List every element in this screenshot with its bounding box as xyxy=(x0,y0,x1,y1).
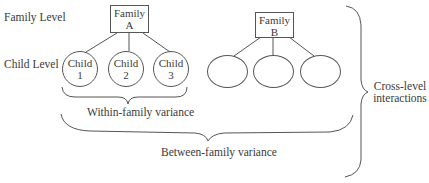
within-family-brace xyxy=(62,87,187,104)
child-a2-label-line2: 2 xyxy=(109,69,143,81)
child-a2-label-line1: Child xyxy=(109,57,143,69)
family-a-label-line1: Family xyxy=(111,7,148,19)
child-a1-label-line2: 1 xyxy=(63,69,97,81)
child-a1-label-line1: Child xyxy=(63,57,97,69)
family-b-box: Family B xyxy=(255,12,294,38)
family-b-label-line2: B xyxy=(256,26,293,38)
family-level-label: Family Level xyxy=(4,11,66,23)
cross-level-label-line2: interactions xyxy=(370,92,429,104)
within-family-variance-label: Within-family variance xyxy=(87,106,194,118)
child-node-b3 xyxy=(300,55,341,88)
child-node-a3: Child 3 xyxy=(153,51,189,87)
cross-level-label-line1: Cross-level xyxy=(370,80,429,92)
child-node-a1: Child 1 xyxy=(62,51,98,87)
connector-a-1 xyxy=(86,33,117,52)
child-level-label: Child Level xyxy=(4,58,59,70)
cross-level-brace xyxy=(345,6,368,177)
child-node-a2: Child 2 xyxy=(108,51,144,87)
child-a3-label-line2: 3 xyxy=(154,69,188,81)
family-a-label-line2: A xyxy=(111,19,148,31)
child-node-b2 xyxy=(253,55,294,88)
child-node-b1 xyxy=(207,55,248,88)
between-family-brace xyxy=(61,114,353,141)
child-a3-label-line1: Child xyxy=(154,57,188,69)
connector-b-3 xyxy=(289,37,314,56)
family-a-box: Family A xyxy=(110,5,149,33)
cross-level-interactions-label: Cross-level interactions xyxy=(370,80,429,104)
connector-a-3 xyxy=(143,33,170,52)
between-family-variance-label: Between-family variance xyxy=(161,146,277,158)
family-b-label-line1: Family xyxy=(256,14,293,26)
connector-b-1 xyxy=(234,37,261,56)
